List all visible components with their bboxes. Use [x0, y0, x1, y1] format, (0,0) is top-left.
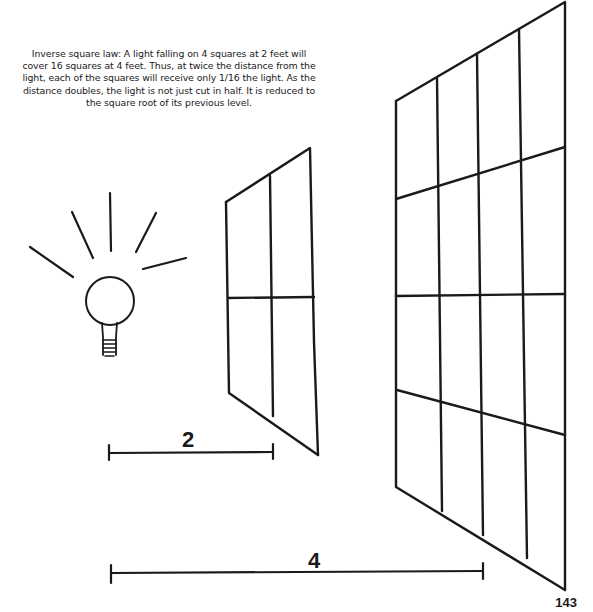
inverse-square-diagram — [0, 0, 593, 612]
distance-label-near: 2 — [182, 427, 194, 453]
near-panel-grid — [226, 148, 318, 455]
far-panel-grid — [396, 2, 565, 590]
page-number: 143 — [555, 595, 577, 610]
light-rays — [30, 193, 186, 277]
distance-label-far: 4 — [308, 548, 320, 574]
distance-bar-4ft — [111, 563, 483, 583]
light-bulb-icon — [30, 193, 186, 356]
